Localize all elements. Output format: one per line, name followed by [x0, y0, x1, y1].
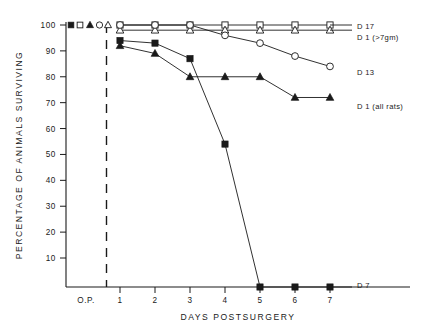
series-line: [120, 46, 330, 98]
data-point-filled-triangle: [256, 73, 264, 80]
x-tick-label: 1: [117, 296, 122, 305]
y-tick-label: 30: [46, 202, 56, 211]
data-point-filled-square: [68, 22, 74, 28]
data-point-filled-triangle: [221, 73, 229, 80]
y-tick-label: 50: [46, 150, 56, 159]
survival-curve-figure: 102030405060708090100 O.P.1234567 D 17D …: [0, 0, 424, 330]
data-point-filled-triangle: [186, 73, 194, 80]
data-point-filled-square: [257, 284, 263, 290]
x-tick-label: 4: [222, 296, 227, 305]
x-tick-label: O.P.: [77, 296, 94, 305]
legend-label: D 13: [357, 68, 374, 77]
y-axis-ticks: [60, 25, 66, 258]
y-tick-label: 70: [46, 99, 56, 108]
data-point-filled-square: [222, 141, 228, 147]
chart-canvas: 102030405060708090100 O.P.1234567 D 17D …: [0, 0, 424, 330]
x-tick-label: 7: [327, 296, 332, 305]
data-point-open-triangle: [105, 21, 112, 27]
x-tick-label: 2: [152, 296, 157, 305]
data-point-open-circle: [222, 32, 229, 39]
series-d-1-all-rats-: [116, 42, 334, 101]
y-tick-label: 20: [46, 228, 56, 237]
legend-layer: D 17D 1 (>7gm)D 13D 1 (all rats)D 7: [330, 22, 403, 290]
data-point-open-square: [77, 22, 83, 28]
data-point-open-circle: [152, 22, 159, 29]
x-axis-tick-labels: O.P.1234567: [77, 296, 332, 305]
data-point-open-circle: [96, 22, 102, 28]
data-point-filled-triangle: [87, 21, 94, 27]
data-point-open-circle: [327, 63, 334, 70]
x-tick-label: 5: [257, 296, 262, 305]
y-tick-label: 90: [46, 47, 56, 56]
legend-label: D 1 (all rats): [357, 102, 403, 111]
x-axis-title: DAYS POSTSURGERY: [181, 312, 296, 322]
series-layer: [116, 22, 334, 291]
x-tick-label: 6: [292, 296, 297, 305]
data-point-filled-square: [152, 40, 158, 46]
data-point-filled-square: [117, 37, 123, 43]
y-tick-label: 100: [41, 21, 56, 30]
y-tick-label: 40: [46, 176, 56, 185]
data-point-filled-triangle: [291, 93, 299, 100]
preop-marker-cluster: [68, 21, 111, 28]
y-tick-label: 60: [46, 125, 56, 134]
legend-label: D 1 (>7gm): [357, 33, 399, 42]
y-axis-tick-labels: 102030405060708090100: [41, 21, 56, 263]
data-point-filled-triangle: [326, 93, 334, 100]
data-point-open-circle: [187, 22, 194, 29]
y-axis-title: PERCENTAGE OF ANIMALS SURVIVING: [14, 51, 24, 260]
x-tick-label: 3: [187, 296, 192, 305]
data-point-open-circle: [292, 53, 299, 60]
y-tick-label: 80: [46, 73, 56, 82]
x-axis-ticks: [120, 287, 330, 293]
data-point-open-circle: [117, 22, 124, 29]
data-point-open-circle: [257, 40, 264, 47]
legend-label: D 17: [357, 22, 374, 31]
legend-label: D 7: [357, 281, 370, 290]
data-point-filled-square: [187, 56, 193, 62]
data-point-filled-square: [292, 284, 298, 290]
y-tick-label: 10: [46, 254, 56, 263]
